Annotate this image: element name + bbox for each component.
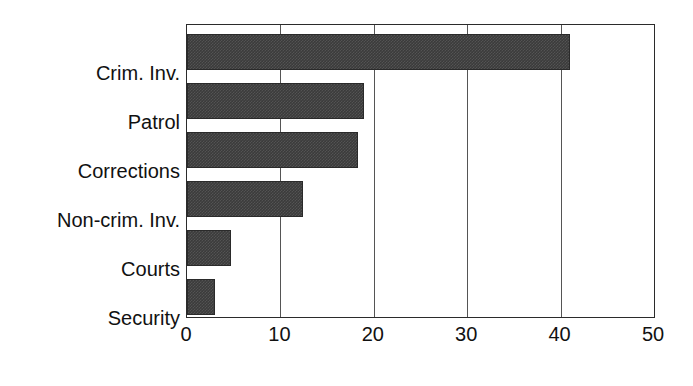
category-label-non-crim-inv: Non-crim. Inv.	[0, 210, 180, 230]
category-label-patrol: Patrol	[0, 112, 180, 132]
xtick-label-30: 30	[455, 322, 477, 346]
xtick-label-20: 20	[362, 322, 384, 346]
bar-crim-inv	[187, 34, 570, 70]
x-axis-tick-labels: 0 10 20 30 40 50	[186, 322, 655, 358]
bar-non-crim-inv	[187, 181, 303, 217]
xtick-label-40: 40	[548, 322, 570, 346]
bar-corrections	[187, 132, 358, 168]
category-label-corrections: Corrections	[0, 161, 180, 181]
plot-area	[186, 24, 655, 318]
bar-security	[187, 279, 215, 315]
bar-chart: Crim. Inv. Patrol Corrections Non-crim. …	[0, 0, 693, 386]
xtick-label-0: 0	[180, 322, 191, 346]
category-axis-labels: Crim. Inv. Patrol Corrections Non-crim. …	[0, 24, 180, 318]
bar-patrol	[187, 83, 364, 119]
category-label-security: Security	[0, 308, 180, 328]
category-label-courts: Courts	[0, 259, 180, 279]
xtick-label-10: 10	[268, 322, 290, 346]
bar-courts	[187, 230, 231, 266]
xtick-label-50: 50	[642, 322, 664, 346]
category-label-crim-inv: Crim. Inv.	[0, 63, 180, 83]
